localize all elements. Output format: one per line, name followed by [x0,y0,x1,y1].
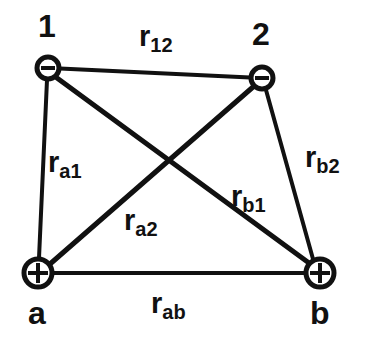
edge-label-rab-base: r [151,287,162,319]
edge-label-rb1-subscript: b1 [242,194,265,216]
edge-label-ra1-subscript: a1 [59,160,81,182]
edge-label-ra2-base: r [124,204,135,236]
edge-label-rab-subscript: ab [162,301,185,323]
edge-label-ra1: ra1 [48,148,82,177]
node-electron2[interactable] [251,67,273,89]
edge-label-r12-base: r [139,20,150,52]
node-electron1[interactable] [37,57,59,79]
edge-label-rb2-base: r [305,141,316,173]
node-label-nucleus-b: b [310,297,330,329]
edge-label-rab: rab [151,289,186,318]
edge-label-ra2: ra2 [124,206,158,235]
edge-label-r12: r12 [139,22,173,51]
node-label-electron2: 2 [252,18,270,50]
edge-r12 [60,69,250,78]
edge-label-rb2: rb2 [305,143,340,172]
edge-label-r12-subscript: 12 [150,34,172,56]
node-label-nucleus-a: a [28,297,46,329]
edge-label-ra2-subscript: a2 [135,218,157,240]
node-label-electron1: 1 [38,10,56,42]
edge-label-rb2-subscript: b2 [316,155,339,177]
edge-label-rb1: rb1 [231,182,266,211]
edge-ra1 [39,80,47,258]
node-nucleus-b[interactable] [306,259,334,287]
diagram-canvas: 1 2 a b r12 ra1 rb2 rb1 ra2 rab [0,0,365,345]
node-nucleus-a[interactable] [24,259,52,287]
edge-label-ra1-base: r [48,146,59,178]
edge-label-rb1-base: r [231,180,242,212]
